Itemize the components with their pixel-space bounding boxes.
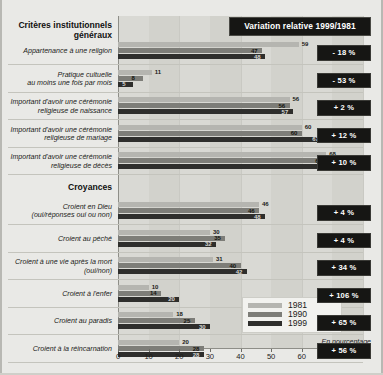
bar-value-label: 8 <box>132 75 135 81</box>
row-separator <box>8 92 363 93</box>
category-label: Croient à la réincarnation <box>0 345 112 353</box>
bar-1981 <box>118 152 326 157</box>
category-label-line: au moins une fois par mois <box>0 79 112 87</box>
row-separator <box>8 279 363 280</box>
bar-1990 <box>118 131 302 136</box>
category-label-line: (oui/non) <box>0 267 112 275</box>
category-label: Pratique cultuelleau moins une fois par … <box>0 71 112 88</box>
bar-1981 <box>118 257 213 262</box>
legend-label-1999: 1999 <box>288 319 307 328</box>
row-separator <box>8 334 363 335</box>
grid-band <box>210 16 241 349</box>
variation-badge: + 2 % <box>317 100 371 116</box>
bar-1999 <box>118 214 265 219</box>
variation-badge: + 34 % <box>317 260 371 276</box>
category-label-line: Pratique cultuelle <box>0 71 112 79</box>
bar-1981 <box>118 202 259 207</box>
x-tick-label: 50 <box>267 352 275 361</box>
bar-1981 <box>118 230 210 235</box>
group-heading: Croyances <box>0 182 112 192</box>
bar-1981 <box>118 125 302 130</box>
variation-banner: Variation relative 1999/1981 <box>229 17 371 36</box>
bar-value-label: 31 <box>216 256 223 262</box>
category-label-line: Croient à la réincarnation <box>0 345 112 353</box>
bar-1981 <box>118 285 149 290</box>
category-label-line: Croient au paradis <box>0 317 112 325</box>
variation-badge: + 56 % <box>317 343 371 359</box>
category-label-line: Appartenance à une religion <box>0 47 112 55</box>
legend-swatch-1981 <box>248 303 282 308</box>
variation-badge: - 18 % <box>317 45 371 61</box>
bar-value-label: 5 <box>122 81 125 87</box>
legend-swatch-1990 <box>248 312 282 317</box>
grid-line <box>179 16 180 349</box>
group-heading-line: généraux <box>0 30 112 40</box>
variation-badge: + 12 % <box>317 128 371 144</box>
bar-1999 <box>118 269 247 274</box>
row-separator <box>8 147 363 148</box>
bar-1999 <box>118 54 265 59</box>
variation-badge: - 53 % <box>317 73 371 89</box>
category-label-line: Croient en Dieu <box>0 203 112 211</box>
bar-1990 <box>118 236 225 241</box>
row-separator <box>8 252 363 253</box>
bar-value-label: 14 <box>150 290 157 296</box>
bar-value-label: 11 <box>155 69 161 75</box>
variation-badge: + 4 % <box>317 205 371 221</box>
category-label: Appartenance à une religion <box>0 47 112 55</box>
bar-1999 <box>118 242 216 247</box>
category-label: Croient au péché <box>0 235 112 243</box>
bar-1990 <box>118 76 143 81</box>
category-label: Croient en Dieu(oui/réponses oui ou non) <box>0 203 112 220</box>
category-label-line: religieuse de naissance <box>0 107 112 115</box>
bar-1981 <box>118 70 152 75</box>
bar-value-label: 30 <box>213 229 220 235</box>
bar-1999 <box>118 109 293 114</box>
bar-1990 <box>118 103 290 108</box>
category-label-line: Croient à une vie après la mort <box>0 258 112 266</box>
variation-badge: + 4 % <box>317 233 371 249</box>
bar-value-label: 20 <box>182 339 189 345</box>
category-label-line: religieuse de mariage <box>0 134 112 142</box>
category-label: Croient au paradis <box>0 317 112 325</box>
bar-value-label: 18 <box>176 311 183 317</box>
category-label: Important d'avoir une cérémoniereligieus… <box>0 126 112 143</box>
group-heading: Critères institutionnelsgénéraux <box>0 20 112 40</box>
category-label: Important d'avoir une cérémoniereligieus… <box>0 153 112 170</box>
bar-1981 <box>118 312 173 317</box>
bar-value-label: 56 <box>293 96 300 102</box>
bar-value-label: 57 <box>282 109 289 115</box>
group-heading-line: Croyances <box>0 182 112 192</box>
category-label: Croient à une vie après la mort(oui/non) <box>0 258 112 275</box>
bar-1981 <box>118 42 299 47</box>
bar-value-label: 60 <box>305 124 312 130</box>
group-heading-line: Critères institutionnels <box>0 20 112 30</box>
category-label: Important d'avoir une cérémoniereligieus… <box>0 98 112 115</box>
category-label-line: Important d'avoir une cérémonie <box>0 153 112 161</box>
bar-1990 <box>118 208 259 213</box>
bar-value-label: 30 <box>199 324 206 330</box>
row-separator <box>8 64 363 65</box>
bar-value-label: 20 <box>168 296 175 302</box>
legend-swatch-1999 <box>248 321 282 326</box>
bar-value-label: 48 <box>254 54 261 60</box>
bar-value-label: 42 <box>236 269 243 275</box>
bar-value-label: 10 <box>152 284 159 290</box>
x-tick-label: 10 <box>144 352 152 361</box>
bar-1990 <box>118 158 326 163</box>
category-label-line: Croient au péché <box>0 235 112 243</box>
x-tick-label: 20 <box>175 352 183 361</box>
bar-1999 <box>118 137 323 142</box>
bar-value-label: 48 <box>254 214 261 220</box>
category-label-line: Important d'avoir une cérémonie <box>0 126 112 134</box>
bar-value-label: 59 <box>302 41 309 47</box>
variation-badge: + 10 % <box>317 155 371 171</box>
bar-1981 <box>118 97 290 102</box>
category-label-line: religieuse de décès <box>0 162 112 170</box>
bar-value-label: 60 <box>291 130 298 136</box>
bar-value-label: 35 <box>214 235 221 241</box>
variation-badge: + 65 % <box>317 315 371 331</box>
bar-1999 <box>118 164 348 169</box>
bar-1990 <box>118 48 262 53</box>
x-tick-label: 0 <box>116 352 120 361</box>
